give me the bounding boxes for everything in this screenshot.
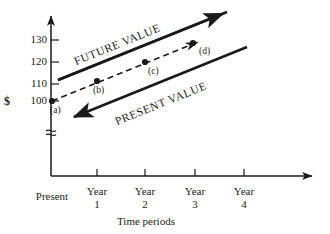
point-c-label: (c) — [148, 67, 159, 77]
y-tick-label-110: 110 — [17, 78, 47, 89]
data-point-c[interactable] — [142, 59, 148, 65]
point-a-label: (a) — [50, 106, 61, 116]
point-b-label: (b) — [93, 86, 104, 96]
data-point-d[interactable] — [190, 40, 196, 46]
x-tick-year-4-line2: 4 — [214, 198, 274, 211]
x-axis-title: Time periods — [117, 216, 175, 227]
y-tick-label-100: 100 — [17, 95, 47, 106]
data-point-a[interactable] — [49, 98, 55, 104]
y-axis — [46, 16, 59, 176]
figure-canvas: 130 120 110 100 $ FUTURE VALUE PRESENT V… — [0, 0, 330, 234]
y-axis-unit-label: $ — [4, 95, 10, 107]
x-tick-year-4-line1: Year — [214, 185, 274, 198]
y-tick-label-120: 120 — [17, 56, 47, 67]
point-d-label: (d) — [199, 47, 210, 57]
data-point-b[interactable] — [94, 78, 100, 84]
x-axis — [51, 169, 312, 176]
y-tick-label-130: 130 — [17, 34, 47, 45]
x-tick-label-year-4: Year 4 — [214, 185, 274, 210]
